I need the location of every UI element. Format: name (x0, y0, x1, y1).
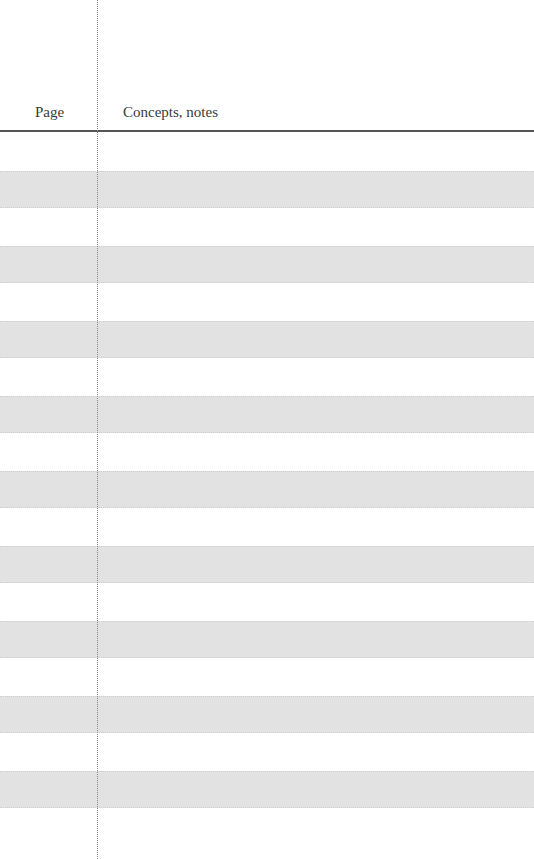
note-row-stripe (0, 396, 534, 433)
note-row-stripe (0, 246, 534, 283)
note-row-stripe (0, 321, 534, 358)
page-column-header: Page (35, 104, 64, 121)
header-rule (0, 130, 534, 132)
note-row-stripe (0, 546, 534, 583)
note-row-stripe (0, 471, 534, 508)
note-row-stripe (0, 171, 534, 208)
note-row-stripe (0, 771, 534, 808)
note-row-stripe (0, 621, 534, 658)
margin-divider (97, 0, 98, 859)
note-row-stripe (0, 696, 534, 733)
notes-column-header: Concepts, notes (123, 104, 218, 121)
